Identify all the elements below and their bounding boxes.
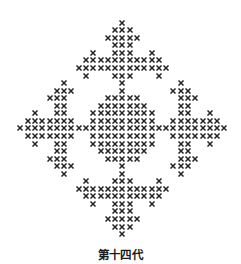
cross-mark-icon — [54, 141, 60, 147]
cross-mark-icon — [105, 57, 111, 63]
cross-mark-icon — [185, 88, 191, 94]
cross-mark-icon — [61, 156, 67, 162]
cross-mark-icon — [39, 125, 45, 131]
cross-mark-icon — [54, 163, 60, 169]
cross-mark-icon — [163, 186, 169, 192]
cross-mark-icon — [134, 148, 140, 154]
cross-mark-icon — [105, 216, 111, 222]
cross-mark-icon — [61, 80, 67, 86]
cross-mark-icon — [105, 186, 111, 192]
cross-mark-icon — [119, 73, 125, 79]
cross-mark-icon — [54, 133, 60, 139]
cross-mark-icon — [47, 125, 53, 131]
cross-mark-icon — [83, 57, 89, 63]
cross-mark-icon — [185, 103, 191, 109]
cross-mark-icon — [119, 95, 125, 101]
cross-mark-icon — [112, 125, 118, 131]
cross-mark-icon — [47, 95, 53, 101]
cross-mark-icon — [149, 118, 155, 124]
cross-mark-icon — [170, 163, 176, 169]
cross-mark-icon — [119, 57, 125, 63]
cross-mark-icon — [90, 118, 96, 124]
cross-mark-icon — [207, 133, 213, 139]
cross-mark-icon — [207, 125, 213, 131]
cross-mark-icon — [214, 133, 220, 139]
cross-mark-icon — [134, 186, 140, 192]
cross-mark-icon — [185, 118, 191, 124]
cross-mark-icon — [192, 156, 198, 162]
cross-mark-icon — [98, 118, 104, 124]
cross-mark-icon — [185, 133, 191, 139]
cross-mark-icon — [32, 110, 38, 116]
cross-mark-icon — [127, 110, 133, 116]
cross-mark-icon — [83, 186, 89, 192]
cross-mark-icon — [105, 35, 111, 41]
cross-mark-icon — [119, 178, 125, 184]
cross-mark-icon — [141, 133, 147, 139]
cross-mark-icon — [119, 208, 125, 214]
cross-mark-icon — [47, 118, 53, 124]
cross-mark-icon — [149, 133, 155, 139]
cross-mark-icon — [105, 193, 111, 199]
cross-mark-icon — [105, 156, 111, 162]
cross-mark-icon — [112, 141, 118, 147]
cross-mark-icon — [112, 186, 118, 192]
cross-mark-icon — [61, 95, 67, 101]
cross-mark-icon — [127, 125, 133, 131]
cross-mark-icon — [105, 110, 111, 116]
cross-mark-icon — [68, 118, 74, 124]
cross-mark-icon — [170, 133, 176, 139]
cross-mark-grid — [0, 0, 241, 240]
cross-mark-icon — [119, 110, 125, 116]
cross-mark-icon — [127, 156, 133, 162]
cross-mark-icon — [83, 125, 89, 131]
cross-mark-icon — [149, 193, 155, 199]
cross-mark-icon — [156, 193, 162, 199]
cross-mark-icon — [112, 148, 118, 154]
cross-mark-icon — [119, 216, 125, 222]
cross-mark-icon — [54, 110, 60, 116]
cross-mark-icon — [178, 80, 184, 86]
cross-mark-icon — [156, 73, 162, 79]
cross-mark-icon — [25, 118, 31, 124]
cross-mark-icon — [178, 163, 184, 169]
cross-mark-icon — [156, 125, 162, 131]
cross-mark-icon — [178, 156, 184, 162]
cross-mark-icon — [32, 133, 38, 139]
cross-mark-icon — [119, 231, 125, 237]
cross-mark-icon — [54, 156, 60, 162]
cross-mark-icon — [178, 118, 184, 124]
cross-mark-icon — [105, 148, 111, 154]
cross-mark-icon — [185, 163, 191, 169]
cross-mark-icon — [83, 193, 89, 199]
cross-mark-icon — [98, 186, 104, 192]
cross-mark-icon — [61, 103, 67, 109]
cross-mark-icon — [149, 141, 155, 147]
cross-mark-icon — [178, 148, 184, 154]
cross-mark-icon — [134, 95, 140, 101]
cross-mark-icon — [90, 50, 96, 56]
cross-mark-icon — [200, 125, 206, 131]
cross-mark-icon — [98, 148, 104, 154]
cross-mark-icon — [98, 125, 104, 131]
cross-mark-icon — [112, 133, 118, 139]
cross-mark-icon — [112, 50, 118, 56]
cross-mark-icon — [134, 156, 140, 162]
cross-mark-icon — [98, 141, 104, 147]
cross-mark-icon — [39, 133, 45, 139]
cross-mark-icon — [76, 186, 82, 192]
cross-mark-icon — [54, 95, 60, 101]
cross-mark-icon — [192, 118, 198, 124]
cross-mark-icon — [207, 118, 213, 124]
cross-mark-icon — [149, 186, 155, 192]
cross-mark-icon — [214, 118, 220, 124]
cross-mark-icon — [141, 118, 147, 124]
cross-mark-icon — [119, 103, 125, 109]
cross-mark-icon — [163, 125, 169, 131]
cross-mark-icon — [149, 125, 155, 131]
cross-mark-icon — [112, 42, 118, 48]
cross-mark-icon — [119, 133, 125, 139]
cross-mark-icon — [192, 95, 198, 101]
cross-mark-icon — [119, 80, 125, 86]
cross-mark-icon — [98, 103, 104, 109]
